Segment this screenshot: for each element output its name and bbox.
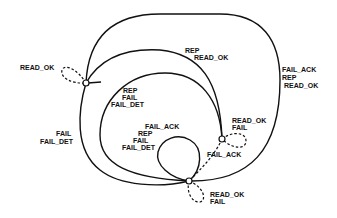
state-right-self-loop	[222, 134, 246, 148]
label-left-outer-0: FAIL	[56, 130, 72, 137]
label-inner-2: FAIL_DET	[111, 101, 145, 108]
label-s3-self-0: READ_OK	[210, 191, 244, 198]
state-bottom-loop-arc	[158, 137, 200, 181]
label-s3-loop-0: FAIL_ACK	[145, 123, 179, 130]
label-s3-self-1: FAIL	[210, 198, 226, 205]
state-bottom[interactable]	[186, 178, 192, 184]
label-s2-to-s3: FAIL_ACK	[207, 151, 241, 158]
outer-transition-arc	[86, 14, 280, 181]
state-diagram: READ_OK FAIL_ACK REP READ_OK REP READ_OK…	[0, 0, 337, 218]
label-s2-self-0: READ_OK	[232, 117, 266, 124]
label-s1-self: READ_OK	[20, 64, 54, 71]
arrow-tick	[88, 82, 101, 83]
state-top-left[interactable]	[83, 80, 89, 86]
state-top-left-self-loop	[62, 67, 86, 83]
state-right[interactable]	[219, 136, 225, 142]
label-middle-0: REP	[185, 47, 200, 54]
label-inner-1: FAIL	[122, 94, 138, 101]
label-outer-0: FAIL_ACK	[282, 66, 316, 73]
label-s2-self-1: FAIL	[232, 124, 248, 131]
label-s3-loop-2: FAIL	[133, 137, 149, 144]
label-s3-loop-3: FAIL_DET	[122, 144, 156, 151]
label-outer-2: READ_OK	[284, 82, 318, 89]
label-inner-0: REP	[123, 87, 138, 94]
label-middle-1: READ_OK	[194, 54, 228, 61]
label-outer-1: REP	[282, 74, 297, 81]
label-s3-loop-1: REP	[138, 130, 153, 137]
label-left-outer-1: FAIL_DET	[40, 138, 74, 145]
